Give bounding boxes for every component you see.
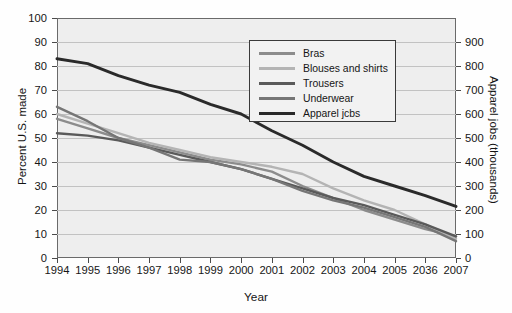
y-tick-mark-right	[456, 114, 461, 115]
y-tick-mark-right	[456, 162, 461, 163]
y-tick-label-left: 90	[13, 37, 47, 47]
y-tick-label-right: 800	[465, 61, 499, 71]
legend-item: Bras	[250, 46, 395, 61]
y-tick-label-right: 900	[465, 37, 499, 47]
legend-label-underwear: Underwear	[303, 93, 354, 104]
legend-item: Trousers	[250, 76, 395, 91]
x-tick-mark	[118, 258, 119, 263]
y-tick-label-left: 80	[13, 61, 47, 71]
legend-swatch-bras	[259, 52, 295, 55]
y-tick-mark-right	[456, 186, 461, 187]
legend-swatch-trousers	[259, 82, 295, 85]
x-tick-mark	[425, 258, 426, 263]
legend-swatch-underwear	[259, 97, 295, 100]
y-tick-label-right: 100	[465, 229, 499, 239]
legend-swatch-apparel-jobs	[259, 112, 295, 115]
y-tick-label-right: 200	[465, 205, 499, 215]
chart-container: 0102030405060708090100010020030040050060…	[0, 0, 512, 313]
y-tick-mark-right	[456, 90, 461, 91]
y-tick-label-right: 0	[465, 253, 499, 263]
y-tick-label-left: 20	[13, 205, 47, 215]
x-tick-mark	[395, 258, 396, 263]
legend-item: Underwear	[250, 91, 395, 106]
legend-label-bras: Bras	[303, 48, 324, 59]
x-tick-mark	[149, 258, 150, 263]
y-axis-title-right: Apparel jobs (thousands)	[488, 76, 500, 204]
x-tick-mark	[88, 258, 89, 263]
legend-label-blouses-and-shirts: Blouses and shirts	[303, 63, 388, 74]
x-tick-mark	[272, 258, 273, 263]
legend-item: Apparel jcbs	[250, 106, 395, 121]
y-tick-mark-right	[456, 234, 461, 235]
legend-label-apparel-jobs: Apparel jcbs	[303, 108, 360, 119]
legend: Bras Blouses and shirts Trousers Underwe…	[249, 40, 396, 122]
x-tick-mark	[210, 258, 211, 263]
y-tick-mark-right	[456, 138, 461, 139]
y-tick-mark-right	[456, 42, 461, 43]
y-tick-label-left: 10	[13, 229, 47, 239]
x-tick-mark	[57, 258, 58, 263]
x-tick-label: 2007	[436, 265, 476, 276]
y-tick-mark-right	[456, 210, 461, 211]
legend-item: Blouses and shirts	[250, 61, 395, 76]
y-tick-label-left: 0	[13, 253, 47, 263]
y-tick-mark-right	[456, 66, 461, 67]
x-tick-mark	[364, 258, 365, 263]
legend-swatch-blouses-and-shirts	[259, 67, 295, 70]
x-tick-mark	[180, 258, 181, 263]
x-tick-mark	[333, 258, 334, 263]
x-tick-mark	[303, 258, 304, 263]
x-tick-mark	[241, 258, 242, 263]
y-axis-title-left: Percent U.S. made	[16, 88, 28, 185]
x-axis-title: Year	[0, 290, 512, 304]
y-tick-label-left: 100	[13, 13, 47, 23]
legend-label-trousers: Trousers	[303, 78, 344, 89]
x-tick-mark	[456, 258, 457, 263]
